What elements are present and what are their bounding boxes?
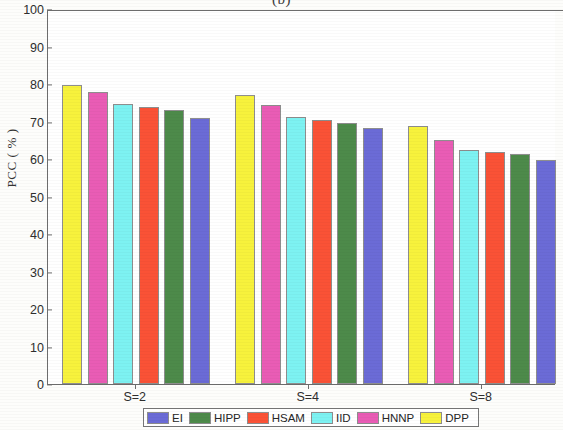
bar-dpp-S8 <box>408 126 428 384</box>
legend[interactable]: EIHIPPHSAMIIDHNNPDPP <box>143 408 479 427</box>
y-axis-tick-mark <box>47 159 52 160</box>
bar-ei-S8 <box>536 160 556 384</box>
legend-swatch-hsam-icon <box>247 412 269 424</box>
plot-area <box>47 10 555 385</box>
legend-swatch-hnnp-icon <box>357 412 379 424</box>
plot-bottom-axis-rule <box>47 384 549 385</box>
bar-hnnp-S4 <box>261 105 281 384</box>
y-axis-tick-mark <box>47 234 52 235</box>
x-axis-tick-mark <box>481 384 482 389</box>
y-axis-tick-label: 80 <box>0 78 44 92</box>
bar-hsam-S2 <box>139 107 159 384</box>
legend-label: HNNP <box>382 412 415 424</box>
y-axis-tick-mark <box>47 384 52 385</box>
x-axis-group-label: S=4 <box>296 390 319 404</box>
x-axis-tick-mark <box>135 384 136 389</box>
y-axis-tick-mark <box>47 309 52 310</box>
bar-iid-S4 <box>286 117 306 384</box>
legend-label: DPP <box>445 412 469 424</box>
y-axis-tick-label: 90 <box>0 41 44 55</box>
figure-caption: (b) <box>0 0 563 8</box>
bar-hipp-S8 <box>510 154 530 384</box>
bar-ei-S4 <box>363 128 383 384</box>
legend-item-hnnp[interactable]: HNNP <box>357 412 419 424</box>
bar-hsam-S4 <box>312 120 332 384</box>
bar-hnnp-S2 <box>88 92 108 385</box>
legend-item-hsam[interactable]: HSAM <box>247 412 309 424</box>
bar-hipp-S4 <box>337 123 357 384</box>
legend-swatch-dpp-icon <box>420 412 442 424</box>
legend-label: HIPP <box>214 412 241 424</box>
bar-dpp-S4 <box>235 95 255 384</box>
legend-swatch-iid-icon <box>311 412 333 424</box>
y-axis-tick-mark <box>47 122 52 123</box>
y-axis-label: PCC ( % ) <box>4 98 20 218</box>
legend-item-ei[interactable]: EI <box>147 412 187 424</box>
x-axis-tick-mark <box>308 384 309 389</box>
bar-hsam-S8 <box>485 152 505 385</box>
legend-item-hipp[interactable]: HIPP <box>189 412 245 424</box>
y-axis-tick-mark <box>47 347 52 348</box>
x-axis-group-label: S=2 <box>123 390 146 404</box>
legend-item-dpp[interactable]: DPP <box>420 412 473 424</box>
y-axis-tick-mark <box>47 9 52 10</box>
bar-dpp-S2 <box>62 85 82 384</box>
y-axis-tick-label: 10 <box>0 341 44 355</box>
y-axis-tick-mark <box>47 197 52 198</box>
legend-label: IID <box>336 412 351 424</box>
bar-hipp-S2 <box>164 110 184 385</box>
legend-label: EI <box>172 412 183 424</box>
y-axis-tick-label: 40 <box>0 228 44 242</box>
y-axis-tick-label: 100 <box>0 3 44 17</box>
y-axis-tick-mark <box>47 84 52 85</box>
y-axis-tick-label: 20 <box>0 303 44 317</box>
y-axis-tick-label: 0 <box>0 378 44 392</box>
bar-ei-S2 <box>190 118 210 384</box>
y-axis-tick-mark <box>47 272 52 273</box>
y-axis-tick-label: 30 <box>0 266 44 280</box>
legend-item-iid[interactable]: IID <box>311 412 355 424</box>
legend-label: HSAM <box>272 412 305 424</box>
figure-canvas: (b) 1009080706050403020100 PCC ( % ) S=2… <box>0 0 563 430</box>
y-axis-tick-mark <box>47 47 52 48</box>
bar-hnnp-S8 <box>434 140 454 384</box>
bar-iid-S8 <box>459 150 479 384</box>
legend-swatch-hipp-icon <box>189 412 211 424</box>
bar-iid-S2 <box>113 104 133 384</box>
legend-swatch-ei-icon <box>147 412 169 424</box>
x-axis-group-label: S=8 <box>469 390 492 404</box>
